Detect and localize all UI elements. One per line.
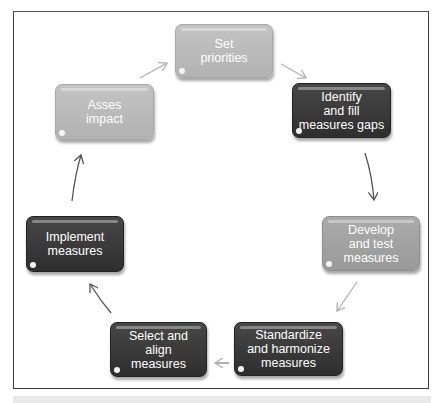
step-label: Select andalignmeasures (129, 329, 188, 371)
step-label: Developand testmeasures (344, 223, 399, 265)
step-set-priorities: Setpriorities (175, 24, 273, 78)
step-label: Identifyand fillmeasures gaps (299, 90, 384, 132)
step-standardize: Standardizeand harmonizemeasures (234, 322, 343, 376)
arrow-develop-to-standardize (337, 282, 357, 311)
step-assess-impact: Assesimpact (55, 84, 154, 140)
corner-dot (326, 261, 332, 267)
step-develop-test: Developand testmeasures (322, 216, 420, 271)
step-select-align: Select andalignmeasures (110, 322, 207, 377)
step-implement: Implementmeasures (26, 216, 124, 272)
step-label: Setpriorities (200, 37, 247, 65)
arrow-select-to-implement (90, 284, 111, 313)
step-label: Implementmeasures (46, 230, 104, 258)
arrow-implement-to-assess (72, 155, 81, 201)
step-identify-gaps: Identifyand fillmeasures gaps (292, 83, 391, 138)
corner-dot (59, 130, 65, 136)
arrow-identify-to-develop (365, 153, 374, 200)
step-label: Assesimpact (86, 98, 123, 126)
arrow-set-to-identify (281, 64, 306, 78)
corner-dot (114, 367, 120, 373)
corner-dot (238, 366, 244, 372)
corner-dot (30, 262, 36, 268)
corner-dot (296, 128, 302, 134)
arrow-assess-to-set (140, 63, 167, 78)
corner-dot (179, 68, 185, 74)
step-label: Standardizeand harmonizemeasures (247, 328, 330, 370)
